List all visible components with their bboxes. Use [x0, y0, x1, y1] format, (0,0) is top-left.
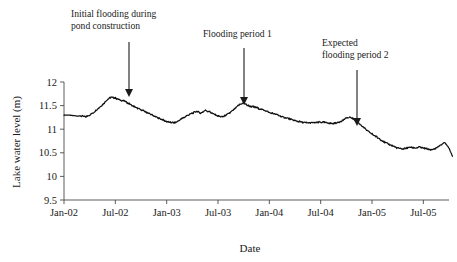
x-axis-title: Date — [240, 242, 261, 254]
y-tick-label: 11 — [47, 124, 57, 135]
y-tick-label: 11.5 — [39, 100, 57, 111]
x-tick-label: Jul-04 — [308, 207, 335, 218]
y-tick-label: 12 — [47, 77, 58, 88]
x-tick-label: Jan-02 — [50, 207, 78, 218]
x-tick-label: Jul-05 — [410, 207, 436, 218]
y-axis-title: Lake water level (m) — [10, 96, 23, 188]
chart-background — [0, 0, 457, 262]
annotation-flooding-period-1-label: Flooding period 1 — [203, 28, 272, 39]
y-tick-label: 10.5 — [39, 147, 57, 158]
lake-water-level-chart: 9.51010.51111.512 Jan-02Jul-02Jan-03Jul-… — [0, 0, 457, 262]
x-tick-label: Jul-02 — [102, 207, 128, 218]
x-tick-label: Jul-03 — [205, 207, 231, 218]
y-tick-label: 10 — [47, 171, 58, 182]
x-tick-label: Jan-04 — [255, 207, 284, 218]
x-tick-label: Jan-05 — [358, 207, 386, 218]
y-tick-label: 9.5 — [44, 195, 57, 206]
chart-svg: 9.51010.51111.512 Jan-02Jul-02Jan-03Jul-… — [0, 0, 457, 262]
x-tick-label: Jan-03 — [153, 207, 181, 218]
